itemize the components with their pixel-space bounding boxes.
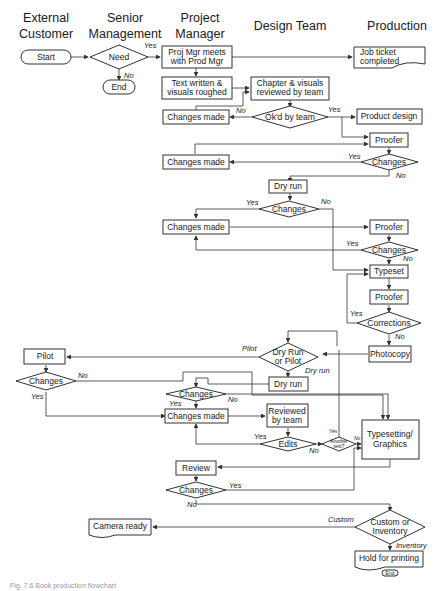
svg-text:No: No <box>354 435 361 441</box>
proofer-process-2: Proofer <box>370 220 408 234</box>
typesetting-graphics-process: Typesetting/ Graphics <box>362 420 419 459</box>
job-ticket-document: Job ticket completed <box>354 47 425 68</box>
svg-text:Changes: Changes <box>372 245 406 255</box>
svg-text:Project: Project <box>181 11 220 25</box>
svg-text:Changes: Changes <box>372 157 406 167</box>
svg-text:Yes: Yes <box>350 309 363 318</box>
svg-text:Senior: Senior <box>107 11 143 25</box>
changes-made-process-4: Changes made <box>165 409 228 423</box>
chapter-review-process: Chapter & visuals reviewed by team <box>251 77 329 100</box>
end-terminator-small: End <box>382 570 398 576</box>
changes-made-process-3: Changes made <box>163 220 229 234</box>
changes-decision-6: Changes <box>166 482 226 498</box>
svg-text:Yes: Yes <box>144 41 157 50</box>
svg-text:Management: Management <box>89 27 162 41</box>
start-terminator: Start <box>21 50 71 64</box>
svg-text:with Prod Mgr: with Prod Mgr <box>170 56 224 66</box>
svg-text:No: No <box>309 446 319 455</box>
svg-text:No: No <box>228 395 238 404</box>
corrections-decision: Corrections <box>357 312 421 334</box>
lane-header-project-manager: Project Manager <box>175 11 224 41</box>
changes-decision-4: Changes <box>16 372 76 390</box>
svg-text:Pilot: Pilot <box>37 351 54 361</box>
edits-decision: Edits <box>260 437 316 451</box>
svg-text:Hold for printing: Hold for printing <box>359 553 419 563</box>
svg-text:No: No <box>78 371 88 380</box>
svg-text:No: No <box>321 197 331 206</box>
svg-text:Dry run: Dry run <box>274 379 302 389</box>
product-design-process: Product design <box>357 109 422 124</box>
changes-decision-2: Changes <box>259 201 319 217</box>
another-test-decision: Another test? <box>322 437 356 451</box>
svg-text:Yes: Yes <box>169 399 182 408</box>
svg-text:test?: test? <box>334 443 345 449</box>
svg-text:Manager: Manager <box>175 27 224 41</box>
proofer-process-3: Proofer <box>370 290 408 304</box>
svg-text:Yes: Yes <box>328 105 341 114</box>
svg-text:Pilot: Pilot <box>242 344 258 353</box>
svg-text:Proofer: Proofer <box>375 222 403 232</box>
svg-text:Changes: Changes <box>29 376 63 386</box>
svg-text:Need: Need <box>109 52 130 62</box>
changes-made-process-1: Changes made <box>163 110 229 124</box>
svg-text:Yes: Yes <box>346 239 359 248</box>
lane-header-external-customer: External Customer <box>19 11 73 41</box>
review-process: Review <box>176 461 216 475</box>
svg-text:Product design: Product design <box>361 111 418 121</box>
svg-text:Customer: Customer <box>19 27 73 41</box>
svg-text:Yes: Yes <box>254 432 267 441</box>
svg-text:Proofer: Proofer <box>375 135 403 145</box>
changes-decision-1: Changes <box>361 154 418 170</box>
figure-caption: Fig. 7.6 Book production flowchart <box>10 582 116 590</box>
text-written-process: Text written & visuals roughed <box>162 77 232 99</box>
svg-text:by team: by team <box>272 415 302 425</box>
pilot-process: Pilot <box>24 349 65 364</box>
svg-text:Edits: Edits <box>279 439 298 449</box>
connectors <box>46 57 390 550</box>
svg-text:Yes: Yes <box>246 198 259 207</box>
svg-text:Inventory: Inventory <box>373 526 409 536</box>
svg-text:Yes: Yes <box>31 392 44 401</box>
svg-text:Dry run: Dry run <box>274 181 302 191</box>
hold-for-printing-document: Hold for printing <box>355 551 423 570</box>
changes-made-process-2: Changes made <box>163 155 229 169</box>
svg-text:Corrections: Corrections <box>367 318 410 328</box>
typeset-process: Typeset <box>370 265 408 278</box>
svg-text:External: External <box>23 11 69 25</box>
svg-text:Changes made: Changes made <box>167 112 225 122</box>
photocopy-process: Photocopy <box>369 346 411 362</box>
lane-header-senior-management: Senior Management <box>89 11 162 41</box>
svg-text:Custom: Custom <box>328 515 354 524</box>
dry-run-process-2: Dry run <box>269 377 308 391</box>
svg-text:No: No <box>403 254 413 263</box>
svg-text:Camera ready: Camera ready <box>93 521 148 531</box>
svg-text:Photocopy: Photocopy <box>370 349 411 359</box>
svg-text:Changes: Changes <box>272 204 306 214</box>
lane-header-design-team: Design Team <box>254 19 327 33</box>
svg-text:Yes: Yes <box>229 481 242 490</box>
svg-text:No: No <box>124 71 134 80</box>
svg-text:or Pilot: or Pilot <box>275 356 302 366</box>
svg-text:Yes: Yes <box>329 428 338 434</box>
svg-text:Ok'd by team: Ok'd by team <box>265 112 315 122</box>
camera-ready-document: Camera ready <box>89 519 151 538</box>
reviewed-by-team-process: Reviewed by team <box>267 404 308 427</box>
svg-text:Changes: Changes <box>179 389 213 399</box>
dry-run-process-1: Dry run <box>269 180 307 193</box>
svg-text:No: No <box>395 332 405 341</box>
svg-text:Graphics: Graphics <box>373 439 407 449</box>
svg-text:reviewed by team: reviewed by team <box>257 87 324 97</box>
svg-text:completed: completed <box>360 56 399 66</box>
need-decision: Need <box>90 45 148 69</box>
svg-text:Typesetting/: Typesetting/ <box>367 429 413 439</box>
svg-text:Changes made: Changes made <box>167 411 225 421</box>
lane-header-production: Production <box>367 19 427 33</box>
svg-text:visuals roughed: visuals roughed <box>167 87 227 97</box>
okd-by-team-decision: Ok'd by team <box>252 106 328 128</box>
svg-text:Dry run: Dry run <box>305 366 330 375</box>
svg-text:End: End <box>386 570 395 576</box>
flowchart: External Customer Senior Management Proj… <box>0 0 441 591</box>
svg-text:Yes: Yes <box>348 152 361 161</box>
svg-text:Changes made: Changes made <box>167 222 225 232</box>
custom-or-inventory-decision: Custom or Inventory <box>355 510 425 544</box>
